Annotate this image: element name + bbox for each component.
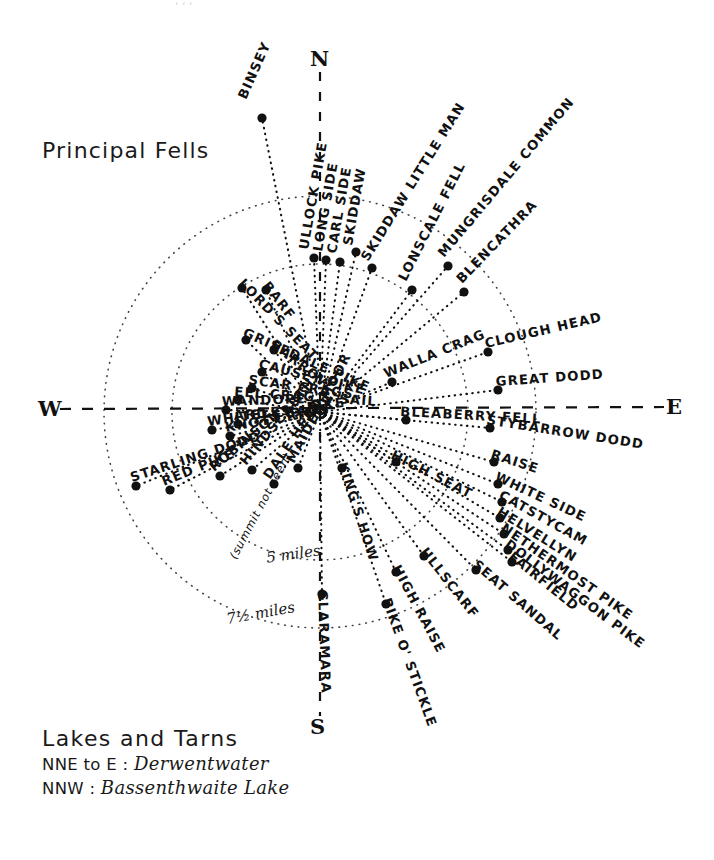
- legend-row: NNW : Bassenthwaite Lake: [42, 776, 290, 800]
- summit-dot[interactable]: [335, 257, 344, 266]
- fell-label: WALLA CRAG: [382, 326, 488, 380]
- fell-label: CLOUGH HEAD: [483, 309, 603, 351]
- legend-row-label: NNW :: [42, 779, 95, 798]
- cardinal-north: N: [310, 46, 329, 71]
- legend-heading: Lakes and Tarns: [42, 726, 290, 751]
- fell-label: HIGH SEAT: [389, 447, 475, 501]
- fell-label: GREAT DODD: [495, 366, 604, 389]
- annotation: (summit not seen): [226, 450, 294, 561]
- cardinal-west: W: [38, 396, 62, 421]
- fell-label: GLARAMARA: [315, 590, 334, 694]
- legend-row: NNE to E : Derwentwater: [42, 752, 290, 776]
- fell-entry: KING'S HOW: [320, 412, 381, 563]
- summit-dot[interactable]: [367, 263, 376, 272]
- cardinal-south: S: [310, 714, 325, 739]
- legend-row-value: Derwentwater: [134, 753, 269, 774]
- summit-dot[interactable]: [443, 261, 452, 270]
- fell-label: STYBARROW DODD: [486, 412, 645, 452]
- summit-dot[interactable]: [309, 253, 318, 262]
- fell-entry: HIGH RAISE: [320, 412, 448, 656]
- lakes-and-tarns-legend: Lakes and Tarns NNE to E : Derwentwater …: [42, 726, 290, 800]
- cardinal-east: E: [666, 394, 682, 419]
- summit-dot[interactable]: [407, 285, 416, 294]
- summit-dot[interactable]: [321, 255, 330, 264]
- fell-label: BLENCATHRA: [453, 197, 540, 286]
- legend-row-label: NNE to E :: [42, 755, 128, 774]
- summit-dot[interactable]: [257, 113, 266, 122]
- summit-dot[interactable]: [459, 287, 468, 296]
- legend-row-value: Bassenthwaite Lake: [101, 777, 290, 798]
- sight-line: [320, 412, 342, 468]
- fell-label: BINSEY: [235, 39, 273, 101]
- fell-label: KING'S HOW: [335, 460, 381, 563]
- panorama-diagram: , , , Principal Fells BINSEYULLOCK PIKEL…: [0, 0, 714, 860]
